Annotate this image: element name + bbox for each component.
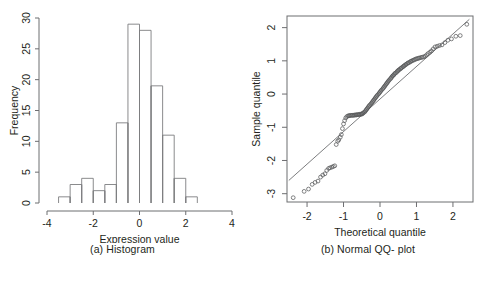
x-axis-title: Expression value [100,233,180,243]
x-axis-tick-label: 4 [229,217,235,229]
y-axis-tick-label: 1 [265,58,277,64]
y-axis-tick-label: 0 [265,91,277,97]
x-axis-tick-label: -1 [339,210,348,222]
y-axis-title: Frequency [8,85,20,135]
qq-point [291,196,295,200]
x-axis-tick-label: -4 [42,217,51,229]
y-axis-tick-label: 5 [20,169,32,175]
x-axis-tick-label: 0 [377,210,383,222]
panel-qqplot: -3-2-1012Sample quantile-2-1012Theoretic… [245,0,491,288]
caption-qqplot: (b) Normal QQ- plot [245,243,491,255]
y-axis-tick-label: 15 [20,105,32,117]
y-axis-tick-label: 25 [20,43,32,55]
y-axis-tick-label: -1 [265,122,277,131]
y-axis-tick-label: 2 [265,25,277,31]
x-axis-tick-label: 2 [183,217,189,229]
x-axis-tick-label: -2 [89,217,98,229]
qq-point [450,37,454,41]
x-axis-tick-label: -2 [302,210,311,222]
histogram-svg: 051015202530Frequency-4-2024Expression v… [0,0,245,243]
qq-point [302,189,306,193]
figure-container: 051015202530Frequency-4-2024Expression v… [0,0,491,288]
y-axis-tick-label: 0 [20,200,32,206]
qq-point [341,127,345,131]
x-axis-tick-label: 2 [450,210,456,222]
qq-point [465,22,469,26]
panel-histogram: 051015202530Frequency-4-2024Expression v… [0,0,245,288]
qq-reference-line [289,19,470,180]
histogram-bars [59,24,198,203]
qq-content [289,19,470,199]
qq-point [454,34,458,38]
qq-points [291,22,468,199]
y-axis-tick-label: 10 [20,135,32,147]
y-axis-tick-label: 20 [20,74,32,86]
x-axis-title: Theoretical quantile [334,226,426,238]
x-axis-tick-label: 1 [414,210,420,222]
qqplot-svg: -3-2-1012Sample quantile-2-1012Theoretic… [245,0,491,243]
qq-point [307,187,311,191]
plot-box-frame [287,16,473,202]
y-axis-tick-label: 30 [20,12,32,24]
y-axis-title: Sample quantile [250,71,262,146]
caption-histogram: (a) Histogram [0,243,245,255]
y-axis-tick-label: -3 [265,189,277,198]
qq-point [458,34,462,38]
y-axis-tick-label: -2 [265,156,277,165]
x-axis-tick-label: 0 [137,217,143,229]
